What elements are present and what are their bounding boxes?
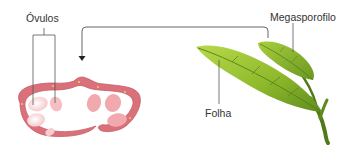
ovule xyxy=(27,95,50,114)
ovary-cross-section xyxy=(19,77,141,138)
arrow-head-icon xyxy=(79,56,86,61)
leaf-branch xyxy=(196,41,328,143)
ovule xyxy=(48,95,64,113)
ovules-label: Óvulos xyxy=(26,13,59,24)
megasporophyll-label: Megasporofilo xyxy=(270,12,336,23)
ovule xyxy=(85,92,103,113)
leaf-label: Folha xyxy=(205,108,231,119)
ovules-leader xyxy=(33,28,55,105)
ovule xyxy=(102,92,123,114)
